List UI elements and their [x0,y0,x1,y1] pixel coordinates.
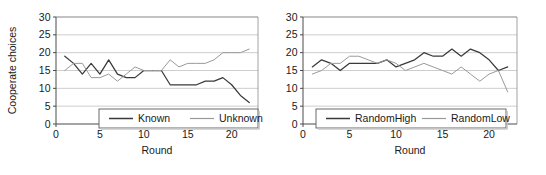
y-tick-label: 25 [286,28,298,40]
y-tick-label: 20 [286,46,298,58]
y-axis-title: Cooperate choices [6,27,18,115]
right-chart-panel: 05101520253005101520RoundRandomHighRando… [273,0,546,175]
y-tick-label: 10 [39,82,51,94]
x-tick-label: 20 [483,128,495,140]
legend-label-unknown: Unknown [219,112,263,124]
x-tick-label: 15 [182,128,194,140]
x-tick-label: 10 [138,128,150,140]
legend-label-randomhigh: RandomHigh [355,112,416,124]
y-tick-label: 25 [39,28,51,40]
y-tick-label: 5 [45,100,51,112]
right-chart-svg: 05101520253005101520RoundRandomHighRando… [273,0,546,175]
y-tick-label: 0 [45,118,51,130]
legend-label-known: Known [138,112,170,124]
y-tick-label: 5 [292,100,298,112]
left-chart-panel: 05101520253005101520RoundCooperate choic… [0,0,273,175]
x-tick-label: 0 [53,128,59,140]
x-tick-label: 5 [347,128,353,140]
legend-label-randomlow: RandomLow [451,112,510,124]
y-tick-label: 0 [292,118,298,130]
x-tick-label: 10 [390,128,402,140]
x-axis-title: Round [142,144,173,156]
x-tick-label: 20 [226,128,238,140]
x-tick-label: 15 [437,128,449,140]
y-tick-label: 30 [39,11,51,23]
y-tick-label: 30 [286,11,298,23]
two-panel-line-chart-figure: 05101520253005101520RoundCooperate choic… [0,0,546,175]
x-tick-label: 5 [97,128,103,140]
y-tick-label: 15 [286,64,298,76]
x-tick-label: 0 [300,128,306,140]
y-tick-label: 20 [39,46,51,58]
x-axis-title: Round [395,144,426,156]
y-tick-label: 10 [286,82,298,94]
left-chart-svg: 05101520253005101520RoundCooperate choic… [0,0,273,175]
y-tick-label: 15 [39,64,51,76]
